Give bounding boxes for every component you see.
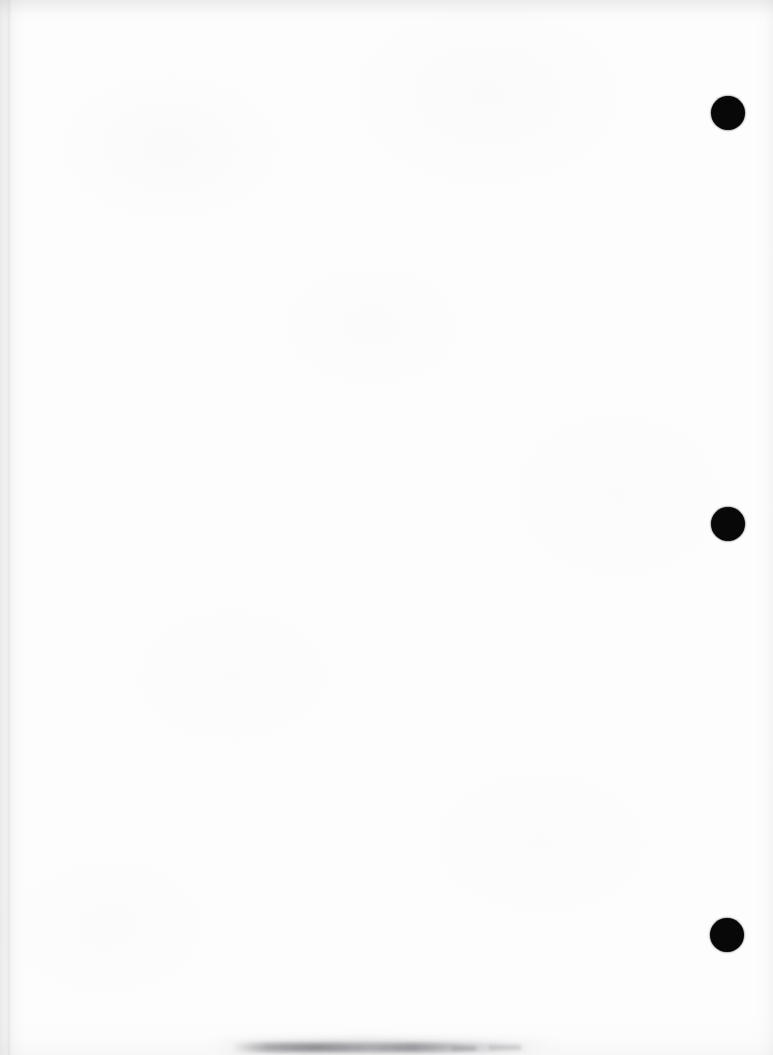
punch-hole-middle-icon xyxy=(711,507,745,541)
page-body-text xyxy=(60,60,690,1000)
punch-hole-top-icon xyxy=(711,96,745,130)
scanned-page xyxy=(0,0,773,1055)
punch-hole-bottom-icon xyxy=(710,918,744,952)
